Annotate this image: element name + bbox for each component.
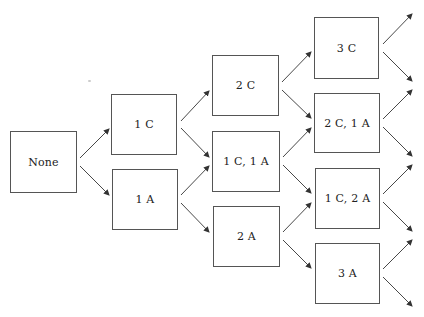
arrow-3a-to-out5 bbox=[383, 277, 412, 306]
arrow-1a-to-1c1a bbox=[181, 166, 209, 195]
arrow-2c-to-3c bbox=[282, 52, 311, 82]
node-2c: 2 C bbox=[212, 55, 279, 116]
arrow-2c-to-2c1a bbox=[282, 90, 311, 118]
node-1c1a: 1 C, 1 A bbox=[212, 131, 280, 192]
arrow-1c1a-to-2c1a bbox=[283, 128, 311, 157]
node-1c: 1 C bbox=[111, 94, 177, 155]
arrow-3c-to-out2 bbox=[383, 52, 412, 81]
arrow-1c2a-to-out4 bbox=[383, 202, 412, 231]
scan-speck bbox=[88, 80, 91, 82]
arrow-1c-to-2c bbox=[181, 91, 209, 121]
arrow-2c1a-to-out3 bbox=[383, 127, 412, 156]
arrow-2c1a-to-out2 bbox=[383, 90, 412, 119]
arrow-1c1a-to-1c2a bbox=[283, 165, 311, 193]
arrow-2a-to-3a bbox=[283, 240, 311, 268]
node-2c1a: 2 C, 1 A bbox=[314, 93, 380, 153]
arrow-1c2a-to-out3 bbox=[383, 165, 412, 194]
arrow-none-to-1a bbox=[80, 166, 109, 195]
arrow-1c-to-1c1a bbox=[181, 128, 209, 157]
node-1c2a: 1 C, 2 A bbox=[315, 168, 380, 229]
arrow-2a-to-1c2a bbox=[283, 203, 311, 232]
arrow-none-to-1c bbox=[80, 129, 109, 158]
node-none: None bbox=[10, 131, 77, 193]
arrow-3a-to-out4 bbox=[383, 240, 412, 269]
arrow-1a-to-2a bbox=[181, 203, 209, 232]
node-3a: 3 A bbox=[315, 243, 380, 304]
node-3c: 3 C bbox=[314, 17, 379, 79]
node-2a: 2 A bbox=[213, 206, 280, 267]
node-1a: 1 A bbox=[112, 169, 178, 230]
arrow-3c-to-out1 bbox=[383, 14, 412, 44]
